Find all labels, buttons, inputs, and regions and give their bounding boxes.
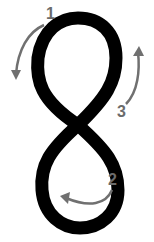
step-label-2: 2: [108, 172, 117, 188]
step-label-1: 1: [46, 6, 55, 22]
arrow-step-2: [66, 190, 112, 204]
arrow-head-2-icon: [60, 192, 70, 204]
digit-eight-shape: [38, 18, 118, 228]
arrow-head-3-icon: [133, 46, 144, 56]
step-label-3: 3: [117, 104, 126, 120]
arrow-head-1-icon: [11, 70, 21, 80]
arrow-step-3: [126, 52, 139, 104]
digit-eight-diagram: [0, 0, 154, 242]
